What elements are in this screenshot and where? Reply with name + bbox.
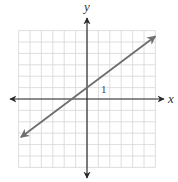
x-axis-label: x xyxy=(167,91,174,106)
line-series xyxy=(21,87,88,137)
coordinate-plane: x y 1 xyxy=(0,0,178,182)
y-axis-label: y xyxy=(82,0,90,14)
unit-tick-label: 1 xyxy=(101,83,107,95)
